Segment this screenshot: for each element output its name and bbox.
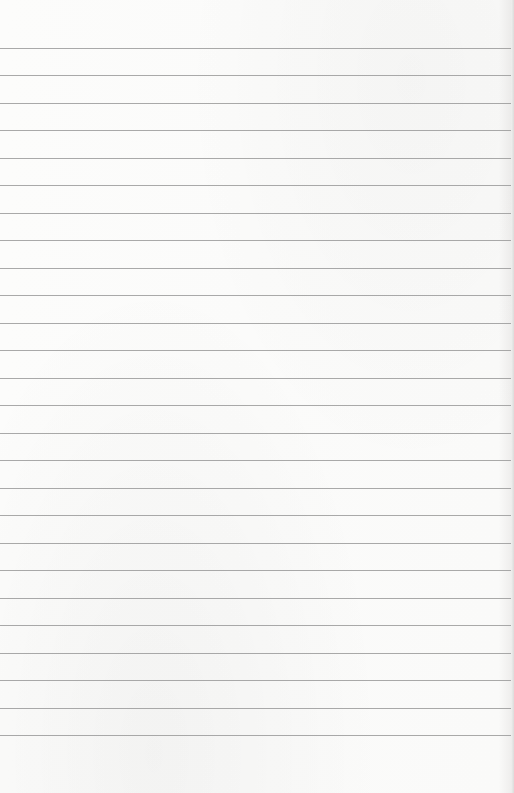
ruled-line	[0, 350, 512, 351]
ruled-line	[0, 103, 512, 104]
ruled-line	[0, 570, 512, 571]
ruled-line	[0, 185, 512, 186]
ruled-line	[0, 213, 512, 214]
ruled-line	[0, 598, 512, 599]
ruled-line	[0, 75, 512, 76]
ruled-line	[0, 488, 512, 489]
ruled-line	[0, 625, 512, 626]
ruled-line	[0, 268, 512, 269]
ruled-line	[0, 543, 512, 544]
ruled-line	[0, 735, 512, 736]
ruled-line	[0, 158, 512, 159]
ruled-line	[0, 323, 512, 324]
ruled-line	[0, 130, 512, 131]
ruled-line	[0, 48, 512, 49]
ruled-line	[0, 680, 512, 681]
ruled-line	[0, 378, 512, 379]
ruled-line	[0, 460, 512, 461]
lined-paper-sheet	[0, 0, 514, 793]
ruled-line	[0, 433, 512, 434]
ruled-line	[0, 653, 512, 654]
ruled-line	[0, 405, 512, 406]
ruled-line	[0, 708, 512, 709]
ruled-line	[0, 240, 512, 241]
ruled-line	[0, 295, 512, 296]
ruled-line	[0, 515, 512, 516]
